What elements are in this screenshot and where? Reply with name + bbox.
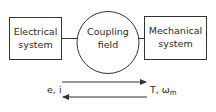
- electrical-label-line2: system: [18, 39, 52, 50]
- coupling-label-line2: field: [98, 39, 119, 50]
- mechanical-variables-label: T, ωm: [149, 84, 177, 97]
- coupling-label-line1: Coupling: [87, 26, 129, 37]
- electrical-system-node: Electrical system: [10, 18, 62, 60]
- electrical-label-line1: Electrical: [14, 26, 58, 37]
- mechanical-system-node: Mechanical system: [145, 17, 207, 60]
- mechanical-variables-subscript: m: [170, 89, 177, 97]
- mechanical-label-line1: Mechanical: [149, 25, 202, 36]
- electromechanical-diagram: Electrical system Coupling field Mechani…: [0, 0, 216, 112]
- electrical-variables-label: e, i: [47, 84, 62, 95]
- mechanical-variables-main: T, ω: [149, 84, 170, 95]
- coupling-field-node: Coupling field: [77, 12, 139, 74]
- mechanical-label-line2: system: [158, 38, 192, 49]
